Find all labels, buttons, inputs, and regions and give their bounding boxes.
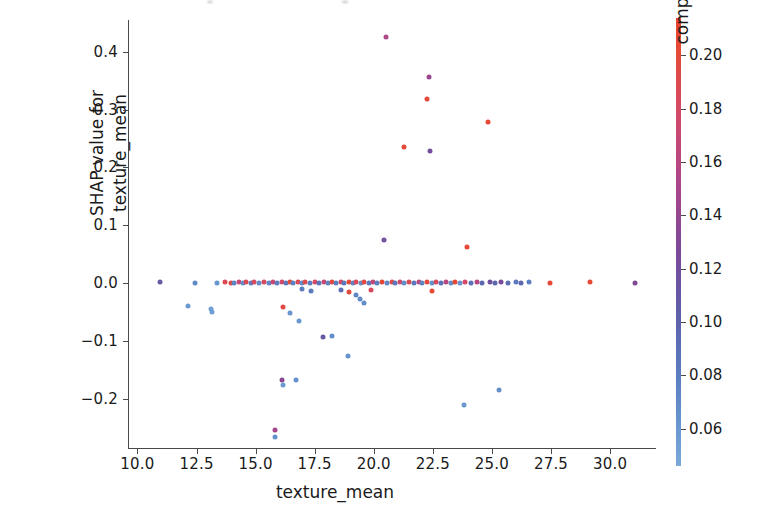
scatter-point	[547, 280, 552, 285]
x-tick-label: 15.0	[239, 455, 273, 473]
scatter-point	[474, 280, 479, 285]
scatter-point	[338, 288, 343, 293]
colorbar-tick-label: 0.20	[689, 46, 722, 64]
scatter-point	[280, 382, 285, 387]
scatter-point	[157, 280, 162, 285]
scatter-point	[468, 280, 473, 285]
y-tick-label: 0.2	[62, 158, 118, 176]
colorbar-tick-mark	[681, 322, 686, 323]
colorbar-tick-mark	[681, 375, 686, 376]
scatter-point	[402, 144, 407, 149]
scatter-point	[346, 290, 351, 295]
scatter-point	[632, 280, 637, 285]
x-tick-label: 25.0	[475, 455, 509, 473]
scatter-point	[362, 300, 367, 305]
scatter-point	[320, 334, 325, 339]
scatter-point	[461, 402, 466, 407]
scatter-point	[297, 318, 302, 323]
scatter-point	[588, 280, 593, 285]
scatter-point	[486, 119, 491, 124]
scatter-point	[526, 280, 531, 285]
scatter-point	[369, 288, 374, 293]
scan-artifact	[190, 0, 490, 8]
x-tick-label: 27.5	[534, 455, 568, 473]
x-axis-spine	[128, 448, 656, 449]
y-tick-label: 0.1	[62, 216, 118, 234]
x-tick-label: 17.5	[298, 455, 332, 473]
y-tick-label: 0.0	[62, 274, 118, 292]
colorbar-tick-label: 0.16	[689, 153, 722, 171]
x-tick-mark	[315, 449, 316, 454]
colorbar-tick-label: 0.18	[689, 100, 722, 118]
scatter-point	[428, 149, 433, 154]
scatter-point	[382, 237, 387, 242]
x-tick-mark	[137, 449, 138, 454]
x-tick-mark	[433, 449, 434, 454]
scatter-point	[272, 435, 277, 440]
y-tick-label: −0.1	[62, 332, 118, 350]
scatter-point	[427, 74, 432, 79]
scatter-point	[209, 310, 214, 315]
scatter-point	[480, 280, 485, 285]
scatter-point	[345, 354, 350, 359]
x-tick-mark	[374, 449, 375, 454]
x-tick-label: 12.5	[179, 455, 213, 473]
scatter-point	[493, 280, 498, 285]
scatter-point	[513, 280, 518, 285]
scatter-point	[299, 286, 304, 291]
scatter-point	[519, 280, 524, 285]
x-tick-mark	[551, 449, 552, 454]
scatter-point	[497, 388, 502, 393]
scatter-point	[186, 304, 191, 309]
scatter-point	[280, 305, 285, 310]
colorbar-tick-mark	[681, 215, 686, 216]
scatter-point	[424, 96, 429, 101]
y-tick-label: 0.4	[62, 43, 118, 61]
scatter-point	[309, 289, 314, 294]
x-tick-label: 10.0	[120, 455, 154, 473]
x-tick-label: 22.5	[416, 455, 450, 473]
y-tick-label: 0.3	[62, 101, 118, 119]
scatter-point	[214, 280, 219, 285]
shap-dependence-figure: SHAP value for texture_mean −0.2−0.10.00…	[0, 0, 775, 522]
scatter-point	[499, 280, 504, 285]
scatter-point	[465, 244, 470, 249]
colorbar-label: compactness_mean	[672, 0, 692, 100]
y-tick-label: −0.2	[62, 390, 118, 408]
scatter-point	[287, 311, 292, 316]
colorbar-tick-mark	[681, 109, 686, 110]
scatter-point	[506, 280, 511, 285]
x-tick-mark	[256, 449, 257, 454]
scatter-plot-area[interactable]	[128, 20, 655, 448]
scatter-point	[429, 289, 434, 294]
colorbar-tick-label: 0.06	[689, 420, 722, 438]
colorbar-tick-label: 0.10	[689, 313, 722, 331]
scatter-point	[487, 280, 492, 285]
scatter-point	[330, 334, 335, 339]
scatter-point	[193, 280, 198, 285]
colorbar-tick-mark	[681, 429, 686, 430]
colorbar-tick-mark	[681, 162, 686, 163]
colorbar-tick-label: 0.12	[689, 260, 722, 278]
scatter-point	[383, 35, 388, 40]
x-axis-label: texture_mean	[0, 482, 670, 502]
x-tick-mark	[197, 449, 198, 454]
colorbar-tick-label: 0.08	[689, 366, 722, 384]
scatter-point	[272, 428, 277, 433]
x-tick-label: 20.0	[357, 455, 391, 473]
x-tick-mark	[492, 449, 493, 454]
x-tick-label: 30.0	[593, 455, 627, 473]
scatter-point	[293, 378, 298, 383]
scatter-point	[462, 280, 467, 285]
colorbar-tick-mark	[681, 269, 686, 270]
x-tick-mark	[610, 449, 611, 454]
colorbar-tick-label: 0.14	[689, 206, 722, 224]
scatter-point	[222, 280, 227, 285]
